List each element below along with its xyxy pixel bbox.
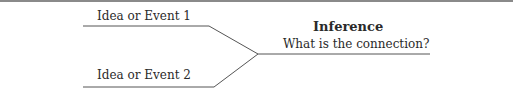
idea1-connector [209, 26, 258, 54]
inference-diagram-lines [0, 0, 513, 93]
inference-question: What is the connection? [283, 37, 429, 51]
idea2-label: Idea or Event 2 [97, 68, 191, 82]
idea2-connector [214, 54, 258, 87]
inference-title: Inference [313, 19, 383, 34]
idea1-label: Idea or Event 1 [97, 9, 191, 23]
